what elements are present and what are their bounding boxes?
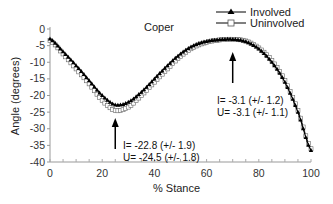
x-axis-label: % Stance: [153, 182, 200, 194]
y-tick-label: -35: [30, 139, 45, 151]
square-marker-icon: [228, 20, 234, 26]
chart-title: Coper: [144, 21, 174, 33]
x-tick-label: 40: [149, 167, 161, 179]
x-tick-label: 80: [253, 167, 265, 179]
y-tick-label: 0: [39, 23, 45, 35]
y-tick-label: -25: [30, 106, 45, 118]
y-tick-label: -30: [30, 122, 45, 134]
x-tick-label: 60: [201, 167, 213, 179]
y-tick-label: -40: [30, 156, 45, 168]
x-tick-label: 20: [96, 167, 108, 179]
y-tick-label: -5: [36, 39, 45, 51]
legend: [216, 9, 246, 27]
legend-label-uninvolved: Uninvolved: [250, 17, 304, 29]
x-tick-label: 0: [47, 167, 53, 179]
y-axis-label: Angle (degrees): [9, 56, 21, 136]
annotation-trough-uninvolved: U= -24.5 (+/- 1.8): [123, 152, 200, 164]
annotation-trough: I= -22.8 (+/- 1.9) U= -24.5 (+/- 1.8): [123, 140, 200, 164]
x-tick-label: 100: [302, 167, 320, 179]
y-tick-label: -20: [30, 89, 45, 101]
annotation-peak-uninvolved: U= -3.1 (+/- 1.1): [217, 107, 288, 119]
annotation-peak: I= -3.1 (+/- 1.2) U= -3.1 (+/- 1.1): [217, 95, 288, 119]
annotation-peak-involved: I= -3.1 (+/- 1.2): [217, 95, 288, 107]
triangle-marker-icon: [228, 9, 235, 15]
y-tick-label: -10: [30, 56, 45, 68]
y-tick-label: -15: [30, 72, 45, 84]
annotation-trough-involved: I= -22.8 (+/- 1.9): [123, 140, 200, 152]
